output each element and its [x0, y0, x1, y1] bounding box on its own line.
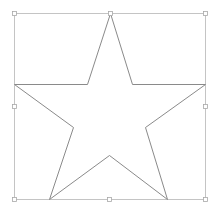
- handle-top-left[interactable]: [13, 12, 17, 16]
- handle-middle-left[interactable]: [13, 105, 17, 109]
- selection-bounding-box: [15, 14, 206, 200]
- handle-top-middle[interactable]: [109, 12, 113, 16]
- star-shape[interactable]: [15, 14, 206, 200]
- handle-top-right[interactable]: [204, 12, 208, 16]
- drawing-canvas[interactable]: [0, 0, 218, 209]
- handle-bottom-left[interactable]: [13, 198, 17, 202]
- handle-bottom-right[interactable]: [204, 198, 208, 202]
- handle-middle-right[interactable]: [204, 105, 208, 109]
- handle-bottom-middle[interactable]: [108, 198, 112, 202]
- resize-handles: [13, 12, 208, 202]
